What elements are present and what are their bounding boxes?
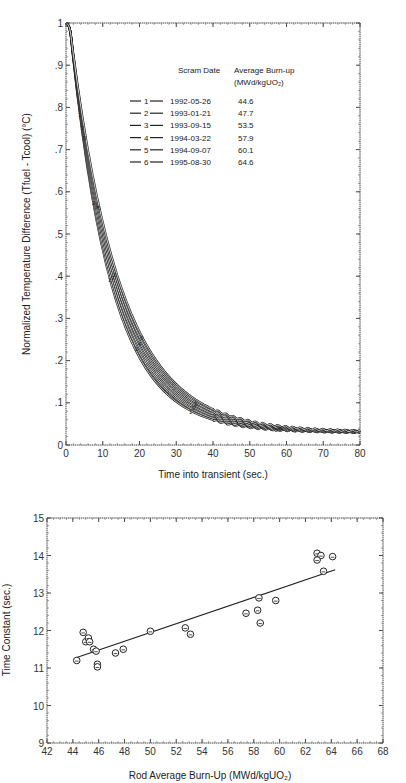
x-tick-label: 42	[41, 746, 53, 757]
curve-1	[66, 23, 360, 433]
y-tick-label: 10	[33, 701, 45, 712]
plot-border	[47, 518, 383, 743]
y-tick-label: 11	[34, 663, 45, 674]
legend-date: 1992-05-26	[170, 97, 211, 106]
data-point	[320, 568, 327, 575]
plot-border	[66, 23, 360, 445]
x-tick-label: 44	[67, 746, 79, 757]
y-tick-label: .8	[55, 102, 64, 113]
legend-id: 1	[144, 97, 149, 106]
legend-id: 6	[144, 158, 149, 167]
time-transient-chart: 135246135246135246 0.1.2.3.4.5.6.7.8.910…	[0, 0, 406, 500]
y-tick-label: 12	[33, 626, 45, 637]
data-point	[86, 638, 93, 645]
data-point	[182, 625, 189, 632]
y-axis-label: Time Constant (sec.)	[1, 584, 12, 676]
legend-date: 1994-09-07	[170, 146, 211, 155]
legend-burnup: 44.6	[238, 97, 254, 106]
x-tick-label: 40	[207, 448, 219, 459]
curve-5	[66, 23, 360, 432]
data-point	[120, 646, 127, 653]
legend-burnup: 57.9	[238, 134, 254, 143]
x-tick-label: 54	[197, 746, 209, 757]
data-point	[73, 657, 80, 664]
data-point	[257, 620, 264, 627]
x-tick-label: 60	[274, 746, 286, 757]
data-point	[112, 650, 119, 657]
curves: 135246135246135246	[66, 23, 360, 433]
data-point	[94, 664, 101, 671]
data-point	[314, 557, 321, 564]
y-tick-label: .6	[55, 186, 64, 197]
y-tick-label: .5	[55, 229, 64, 240]
x-tick-label: 50	[244, 448, 256, 459]
y-tick-label: .2	[55, 355, 64, 366]
legend-burnup: 64.6	[238, 158, 254, 167]
x-tick-label: 0	[63, 448, 69, 459]
y-tick-label: .9	[55, 60, 64, 71]
y-tick-label: .4	[55, 271, 64, 282]
data-point	[147, 628, 154, 635]
data-point	[243, 610, 250, 617]
x-tick-label: 58	[248, 746, 260, 757]
x-tick-label: 46	[93, 746, 105, 757]
curve-2	[66, 23, 360, 433]
fit-line	[77, 570, 335, 658]
legend-date: 1993-01-21	[170, 109, 211, 118]
y-tick-label: .1	[55, 397, 64, 408]
legend-header-units: (MWd/kgUO₂)	[234, 78, 284, 87]
y-tick-label: 15	[33, 513, 45, 524]
x-tick-label: 48	[119, 746, 131, 757]
y-tick-label: 14	[33, 551, 45, 562]
x-axis-label: Time into transient (sec.)	[158, 469, 268, 480]
data-point	[329, 553, 336, 560]
legend-id: 3	[144, 121, 149, 130]
y-tick-label: 1	[57, 18, 63, 29]
legend-date: 1994-03-22	[170, 134, 211, 143]
data-point	[272, 597, 279, 604]
data-point	[80, 629, 87, 636]
y-tick-label: .7	[55, 144, 64, 155]
legend-id: 4	[144, 134, 149, 143]
data-point	[93, 648, 100, 655]
legend-header-date: Scram Date	[178, 66, 221, 75]
legend-date: 1995-08-30	[170, 158, 211, 167]
x-tick-label: 68	[377, 746, 389, 757]
legend-header-burnup: Average Burn-up	[234, 66, 295, 75]
x-tick-label: 60	[281, 448, 293, 459]
legend: Scram DateAverage Burn-up(MWd/kgUO₂)1199…	[130, 66, 295, 167]
legend-burnup: 60.1	[238, 146, 254, 155]
data-point	[187, 631, 194, 638]
x-axis-label: Rod Average Burn-Up (MWd/kgUO₂)	[129, 770, 292, 781]
curve-3	[66, 23, 360, 433]
data-point	[254, 607, 261, 614]
plot-frame	[66, 23, 360, 445]
x-tick-label: 56	[222, 746, 234, 757]
y-tick-label: 13	[33, 588, 45, 599]
x-tick-label: 50	[145, 746, 157, 757]
legend-burnup: 47.7	[238, 109, 254, 118]
legend-id: 5	[144, 146, 149, 155]
scatter-points	[73, 550, 335, 670]
plot-frame	[47, 518, 383, 743]
x-tick-label: 62	[300, 746, 312, 757]
x-tick-label: 66	[352, 746, 364, 757]
legend-date: 1993-09-15	[170, 121, 211, 130]
x-tick-label: 52	[171, 746, 183, 757]
x-tick-label: 80	[354, 448, 366, 459]
y-axis-label: Normalized Temperature Difference (Tfuel…	[21, 113, 32, 355]
curve-6	[66, 23, 360, 432]
legend-id: 2	[144, 109, 149, 118]
x-tick-label: 10	[97, 448, 109, 459]
time-constant-chart: 9101112131415424446485052545658606264666…	[0, 500, 406, 783]
x-tick-label: 20	[134, 448, 146, 459]
x-tick-label: 64	[326, 746, 338, 757]
x-tick-label: 70	[318, 448, 330, 459]
curve-4	[66, 23, 360, 432]
data-point	[256, 595, 263, 602]
x-tick-label: 30	[171, 448, 183, 459]
legend-burnup: 53.5	[238, 121, 254, 130]
y-tick-label: .3	[55, 313, 64, 324]
